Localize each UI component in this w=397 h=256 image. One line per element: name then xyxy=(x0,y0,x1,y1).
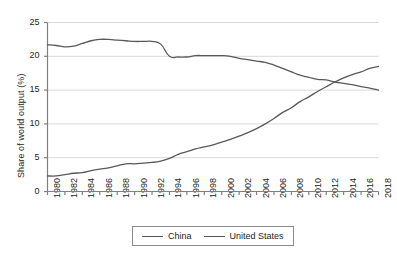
data-series xyxy=(48,39,379,176)
gridlines xyxy=(48,23,379,158)
line-chart: Share of world output (%) 0510152025 198… xyxy=(0,0,397,256)
legend-item-china[interactable]: China xyxy=(142,231,192,241)
series-line-united-states xyxy=(48,39,379,90)
axis-lines xyxy=(48,23,379,192)
series-line-china xyxy=(48,66,379,176)
plot-area xyxy=(0,0,397,256)
legend: ChinaUnited States xyxy=(132,226,294,246)
legend-line-swatch xyxy=(142,236,163,237)
legend-item-united-states[interactable]: United States xyxy=(204,231,284,241)
legend-label: China xyxy=(168,231,192,241)
legend-label: United States xyxy=(230,231,284,241)
axis-ticks xyxy=(44,23,379,196)
legend-line-swatch xyxy=(204,236,225,237)
